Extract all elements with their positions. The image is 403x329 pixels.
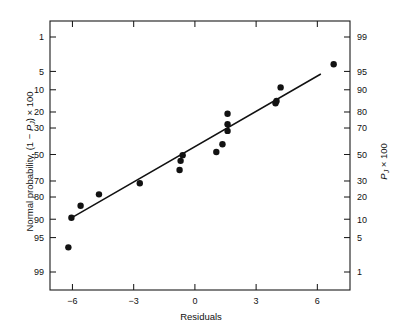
data-point bbox=[96, 191, 102, 197]
y-tick-label-left: 20 bbox=[34, 107, 44, 117]
y-tick-label-left: 95 bbox=[34, 233, 44, 243]
y-tick-label-left: 5 bbox=[39, 67, 44, 77]
x-tick-label: 3 bbox=[254, 296, 259, 306]
data-point bbox=[77, 203, 83, 209]
data-point bbox=[65, 244, 71, 250]
y-tick-label-right: 99 bbox=[357, 32, 367, 42]
y-tick-label-right: 20 bbox=[357, 192, 367, 202]
y-tick-label-left: 99 bbox=[34, 267, 44, 277]
normal-probability-plot: −6−3036151020305070809095999995908070503… bbox=[0, 0, 403, 329]
y-tick-label-right: 5 bbox=[357, 233, 362, 243]
data-point bbox=[330, 61, 336, 67]
x-tick-label: −6 bbox=[67, 296, 77, 306]
y-tick-label-left: 70 bbox=[34, 176, 44, 186]
y-tick-label-left: 50 bbox=[34, 150, 44, 160]
data-point bbox=[177, 158, 183, 164]
data-point bbox=[213, 149, 219, 155]
data-point bbox=[179, 152, 185, 158]
data-point bbox=[224, 128, 230, 134]
y-tick-label-right: 70 bbox=[357, 123, 367, 133]
data-point bbox=[224, 111, 230, 117]
y-tick-label-left: 90 bbox=[34, 215, 44, 225]
y-tick-label-right: 30 bbox=[357, 176, 367, 186]
x-axis-title: Residuals bbox=[180, 311, 222, 322]
y-tick-label-right: 95 bbox=[357, 67, 367, 77]
y-tick-label-left: 30 bbox=[34, 123, 44, 133]
data-point bbox=[219, 141, 225, 147]
y-tick-label-right: 10 bbox=[357, 215, 367, 225]
plot-svg: −6−3036151020305070809095999995908070503… bbox=[0, 0, 403, 329]
data-point bbox=[272, 100, 278, 106]
x-tick-label: 0 bbox=[192, 296, 197, 306]
data-point bbox=[137, 180, 143, 186]
data-point bbox=[277, 84, 283, 90]
y-tick-label-right: 80 bbox=[357, 107, 367, 117]
y-tick-label-right: 1 bbox=[357, 267, 362, 277]
y-tick-label-left: 10 bbox=[34, 85, 44, 95]
x-tick-label: 6 bbox=[315, 296, 320, 306]
plot-background bbox=[0, 0, 403, 329]
y-tick-label-left: 1 bbox=[39, 32, 44, 42]
data-point bbox=[224, 121, 230, 127]
y-tick-label-left: 80 bbox=[34, 192, 44, 202]
y-tick-label-right: 50 bbox=[357, 150, 367, 160]
y-tick-label-right: 90 bbox=[357, 85, 367, 95]
data-point bbox=[68, 215, 74, 221]
x-tick-label: −3 bbox=[129, 296, 139, 306]
data-point bbox=[176, 167, 182, 173]
